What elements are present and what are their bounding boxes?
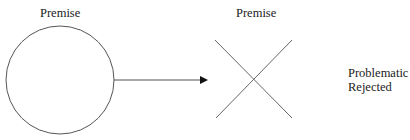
arrow-connector <box>114 76 208 84</box>
left-premise-label: Premise <box>40 6 80 20</box>
status-problematic: Problematic <box>348 66 408 80</box>
right-premise-label: Premise <box>236 6 276 20</box>
arrowhead-icon <box>200 76 208 84</box>
rejected-cross <box>215 40 292 118</box>
status-rejected: Rejected <box>348 80 408 94</box>
status-label: Problematic Rejected <box>348 66 408 94</box>
premise-circle <box>6 26 114 134</box>
